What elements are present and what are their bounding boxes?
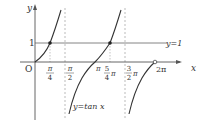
origin-label: O <box>25 64 32 74</box>
x-tick-pi-4-num: π <box>47 65 53 73</box>
x-tick-3pi-2-num: 3 <box>127 65 131 73</box>
x-tick-pi-4-den: 4 <box>48 74 53 82</box>
x-tick-5pi-4-num: 5 <box>105 65 109 73</box>
y1-line-label: y=1 <box>165 39 182 48</box>
x-tick-pi: π <box>95 65 101 73</box>
x-axis-arrow-icon <box>176 60 182 64</box>
x-tick-2pi: 2π <box>156 65 166 74</box>
y-tick-1: 1 <box>29 38 35 48</box>
x-tick-5pi-4-pi: π <box>110 70 116 78</box>
curve-label: y=tan x <box>72 102 105 111</box>
x-tick-3pi-2-den: 2 <box>127 74 131 82</box>
x-tick-3pi-2-pi: π <box>132 70 138 78</box>
x-tick-pi-2-den: 2 <box>68 74 72 82</box>
y-axis-label: y <box>26 3 33 13</box>
x-tick-5pi-4-den: 4 <box>105 74 110 82</box>
open-point-2pi <box>153 60 157 64</box>
tan-branch-1 <box>35 10 61 62</box>
x-tick-pi-2-num: π <box>67 65 73 73</box>
point-5pi-quarter <box>108 41 112 45</box>
y-axis-arrow-icon <box>33 4 37 10</box>
x-axis-label: x <box>191 63 196 73</box>
point-pi-quarter <box>48 41 52 45</box>
tan-graph: y x O 1 y=1 π 4 π 2 π 5 4 π 3 2 π 2π y=t… <box>0 0 204 125</box>
